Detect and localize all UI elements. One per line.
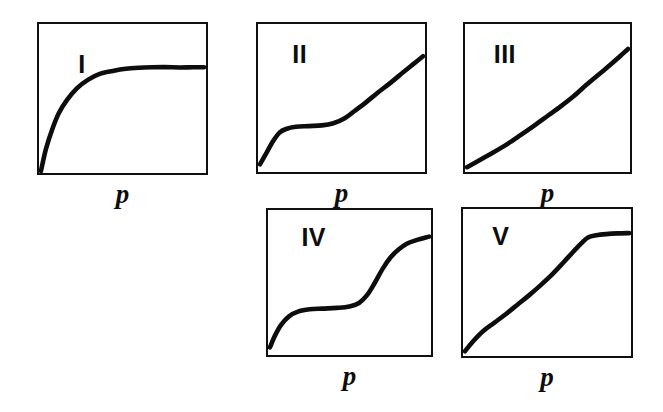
isotherm-panel-type-3: III bbox=[463, 22, 632, 174]
isotherm-curve-type-3 bbox=[465, 24, 630, 172]
x-axis-label-type-5: p bbox=[527, 364, 567, 391]
isotherm-figure: IpIIpIIIpIVpVp bbox=[0, 0, 663, 412]
isotherm-panel-type-5: V bbox=[461, 207, 633, 358]
curve-path-type-5 bbox=[465, 233, 629, 351]
x-axis-label-type-3: p bbox=[528, 180, 568, 207]
panel-label-type-4: IV bbox=[301, 225, 326, 250]
panel-label-type-3: III bbox=[494, 42, 516, 67]
curve-path-type-2 bbox=[260, 56, 423, 164]
panel-label-type-5: V bbox=[492, 224, 509, 249]
isotherm-curve-type-4 bbox=[268, 210, 431, 355]
isotherm-panel-type-1: I bbox=[37, 22, 208, 175]
curve-path-type-1 bbox=[41, 67, 204, 171]
x-axis-label-type-1: p bbox=[103, 181, 143, 208]
panel-label-type-2: II bbox=[292, 42, 307, 67]
panel-label-type-1: I bbox=[78, 52, 85, 77]
isotherm-curve-type-5 bbox=[463, 209, 631, 356]
x-axis-label-type-2: p bbox=[322, 180, 362, 207]
isotherm-curve-type-1 bbox=[39, 24, 206, 173]
isotherm-curve-type-2 bbox=[258, 24, 425, 172]
x-axis-label-type-4: p bbox=[330, 363, 370, 390]
curve-path-type-4 bbox=[270, 237, 429, 348]
isotherm-panel-type-4: IV bbox=[266, 208, 433, 357]
isotherm-panel-type-2: II bbox=[256, 22, 427, 174]
curve-path-type-3 bbox=[467, 49, 628, 167]
